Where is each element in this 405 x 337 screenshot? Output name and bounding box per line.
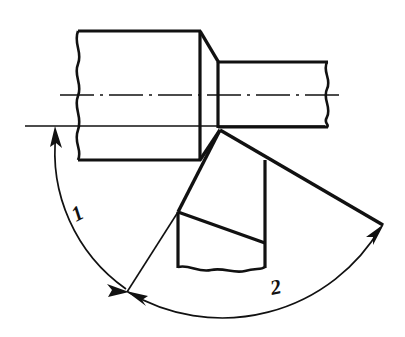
arc-2-end-arrowhead bbox=[366, 224, 384, 245]
angular-dimension-arc-1 bbox=[50, 126, 129, 297]
angle-label-2: 2 bbox=[267, 274, 284, 300]
tool-shank-break-line bbox=[178, 266, 265, 271]
tool-rake-face bbox=[220, 130, 383, 225]
tool-insert-seat-line bbox=[178, 212, 265, 243]
arc-1-end-arrowhead bbox=[107, 284, 129, 297]
arc-2-start-arrowhead bbox=[126, 291, 148, 306]
arc-1-start-arrowhead bbox=[50, 126, 62, 148]
cutting-tool-body bbox=[178, 130, 383, 272]
engineering-drawing-canvas: 1 2 bbox=[0, 0, 405, 337]
drawing-page: 1 2 bbox=[0, 0, 405, 337]
radial-extension-line bbox=[127, 212, 178, 292]
chamfer-upper-edge bbox=[200, 31, 219, 63]
arc-1-path bbox=[55, 133, 126, 289]
